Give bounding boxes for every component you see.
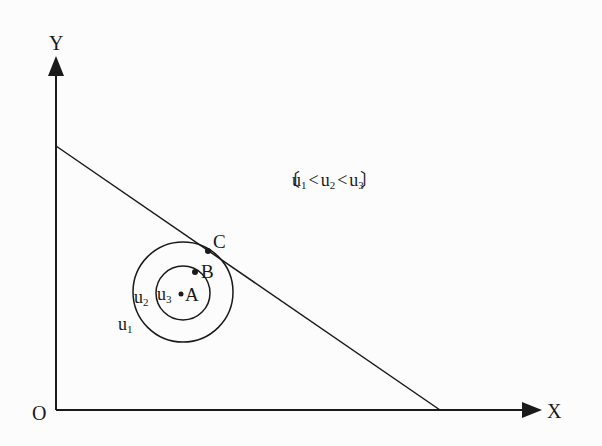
budget-line — [56, 146, 440, 410]
indifference-curve-diagram: Y X O C B A u3 u2 u1 〔u1<u2<u3〕 — [0, 0, 602, 446]
point-b-dot — [192, 269, 198, 275]
y-axis-label: Y — [49, 32, 63, 54]
point-a-dot — [179, 292, 184, 297]
outer-curve-u2 — [133, 242, 233, 342]
diagram-svg: Y X O C B A u3 u2 u1 〔u1<u2<u3〕 — [0, 0, 602, 446]
outside-curve-label: u1 — [118, 314, 133, 335]
point-a-label: A — [185, 284, 199, 305]
inner-curve-label: u3 — [157, 284, 172, 305]
outer-curve-label: u2 — [134, 287, 149, 308]
point-b-label: B — [201, 261, 214, 282]
point-c-label: C — [213, 231, 226, 252]
x-axis-arrow-icon — [522, 402, 542, 418]
utility-order-annotation: 〔u1<u2<u3〕 — [282, 170, 378, 191]
point-c-dot — [205, 248, 211, 254]
origin-label: O — [32, 402, 46, 424]
x-axis-label: X — [547, 400, 562, 422]
y-axis-arrow-icon — [48, 56, 64, 76]
